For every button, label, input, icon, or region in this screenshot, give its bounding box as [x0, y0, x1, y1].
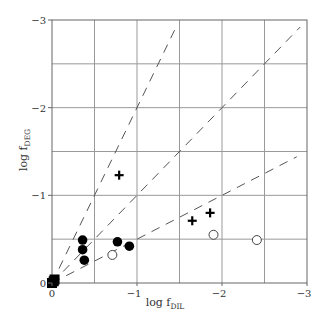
- y-tick-label: −1: [31, 190, 46, 201]
- x-tick-label: −1: [127, 288, 142, 299]
- y-tick-label: 0: [40, 278, 46, 289]
- x-tick-label: 0: [49, 288, 55, 299]
- dashed-reference-line: [52, 157, 297, 283]
- dashed-reference-line: [52, 27, 300, 283]
- y-tick-labels: 0−1−2−3: [31, 15, 52, 289]
- open-circle-marker: [108, 250, 117, 259]
- x-axis-label: log fDIL: [146, 296, 185, 311]
- x-tick-label: −3: [297, 288, 312, 299]
- open-circle-marker: [252, 236, 261, 245]
- y-tick-label: −3: [31, 15, 46, 26]
- data-points: [47, 171, 261, 288]
- filled-circle-marker: [78, 245, 88, 255]
- plus-marker: [115, 171, 124, 180]
- filled-circle-marker: [80, 255, 90, 265]
- y-axis-label: log fDEG: [17, 129, 32, 171]
- filled-circle-marker: [78, 235, 88, 245]
- plus-marker: [206, 208, 215, 217]
- filled-circle-marker: [125, 241, 135, 251]
- y-tick-label: −2: [31, 103, 46, 114]
- filled-circle-marker: [113, 237, 123, 247]
- x-tick-label: −2: [212, 288, 227, 299]
- scatter-chart: 0−1−2−3 0−1−2−3 log fDIL log fDEG: [0, 0, 326, 326]
- dashed-reference-line: [52, 29, 175, 283]
- open-circle-marker: [209, 230, 218, 239]
- plus-marker: [188, 216, 197, 225]
- x-tick-labels: 0−1−2−3: [49, 283, 312, 299]
- reference-lines: [52, 27, 300, 283]
